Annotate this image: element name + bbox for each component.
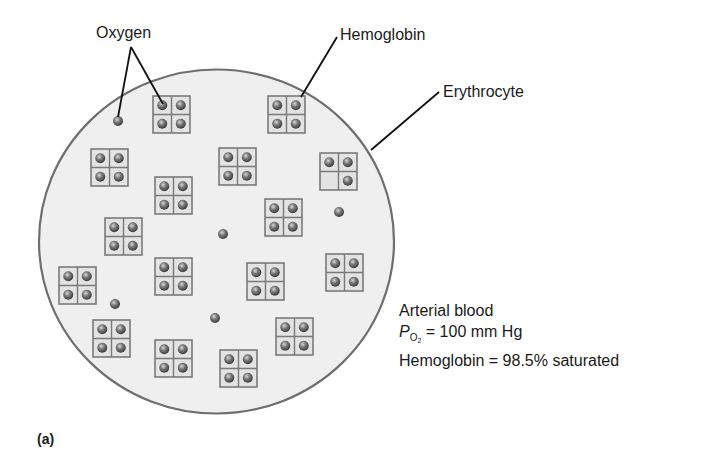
bound-oxygen-icon xyxy=(269,203,279,213)
bound-oxygen-icon xyxy=(128,241,138,251)
bound-oxygen-icon xyxy=(343,157,353,167)
bound-oxygen-icon xyxy=(280,341,290,351)
erythrocyte-leader xyxy=(371,92,439,150)
bound-oxygen-icon xyxy=(97,343,107,353)
bound-oxygen-icon xyxy=(63,290,73,300)
hemoglobin-molecule xyxy=(155,258,192,295)
bound-oxygen-icon xyxy=(288,203,298,213)
bound-oxygen-icon xyxy=(280,322,290,332)
bound-oxygen-icon xyxy=(243,373,253,383)
bound-oxygen-icon xyxy=(270,267,280,277)
hemoglobin-molecule xyxy=(265,199,302,236)
bound-oxygen-icon xyxy=(95,153,105,163)
bound-oxygen-icon xyxy=(178,281,188,291)
free-oxygen-icon xyxy=(218,229,228,239)
bound-oxygen-icon xyxy=(299,322,309,332)
bound-oxygen-icon xyxy=(272,100,282,110)
bound-oxygen-icon xyxy=(178,363,188,373)
bound-oxygen-icon xyxy=(176,119,186,129)
erythrocyte-cell xyxy=(39,70,394,414)
bound-oxygen-icon xyxy=(330,277,340,287)
bound-oxygen-icon xyxy=(330,258,340,268)
bound-oxygen-icon xyxy=(159,262,169,272)
bound-oxygen-icon xyxy=(343,176,353,186)
bound-oxygen-icon xyxy=(349,258,359,268)
bound-oxygen-icon xyxy=(159,181,169,191)
po2-value: = 100 mm Hg xyxy=(421,323,522,340)
bound-oxygen-icon xyxy=(95,172,105,182)
erythrocyte-diagram xyxy=(0,0,727,455)
bound-oxygen-icon xyxy=(178,181,188,191)
bound-oxygen-icon xyxy=(97,324,107,334)
bound-oxygen-icon xyxy=(178,344,188,354)
panel-label: (a) xyxy=(37,431,54,447)
bound-oxygen-icon xyxy=(270,286,280,296)
bound-oxygen-icon xyxy=(159,363,169,373)
free-oxygen-icon xyxy=(113,116,123,126)
bound-oxygen-icon xyxy=(291,100,301,110)
bound-oxygen-icon xyxy=(242,152,252,162)
free-oxygen-icon xyxy=(110,299,120,309)
bound-oxygen-icon xyxy=(291,119,301,129)
bound-oxygen-icon xyxy=(159,200,169,210)
bound-oxygen-icon xyxy=(109,241,119,251)
bound-oxygen-icon xyxy=(178,200,188,210)
bound-oxygen-icon xyxy=(251,267,261,277)
bound-oxygen-icon xyxy=(114,153,124,163)
bound-oxygen-icon xyxy=(269,222,279,232)
bound-oxygen-icon xyxy=(109,222,119,232)
bound-oxygen-icon xyxy=(63,271,73,281)
hemoglobin-molecule xyxy=(155,340,192,377)
bound-oxygen-icon xyxy=(159,281,169,291)
hemoglobin-molecule xyxy=(268,96,305,133)
hemoglobin-molecule xyxy=(93,320,130,357)
free-oxygen-icon xyxy=(210,313,220,323)
bound-oxygen-icon xyxy=(349,277,359,287)
bound-oxygen-icon xyxy=(128,222,138,232)
hemoglobin-molecule xyxy=(91,149,128,186)
bound-oxygen-icon xyxy=(288,222,298,232)
hemoglobin-molecule xyxy=(247,263,284,300)
bound-oxygen-icon xyxy=(324,157,334,167)
bound-oxygen-icon xyxy=(224,354,234,364)
bound-oxygen-icon xyxy=(116,324,126,334)
free-oxygen-icon xyxy=(334,207,344,217)
bound-oxygen-icon xyxy=(223,171,233,181)
hemoglobin-molecule xyxy=(105,218,142,255)
oxygen-label: Oxygen xyxy=(96,24,151,42)
bound-oxygen-icon xyxy=(116,343,126,353)
blood-info: Arterial blood PO2 = 100 mm Hg Hemoglobi… xyxy=(399,301,619,372)
bound-oxygen-icon xyxy=(299,341,309,351)
bound-oxygen-icon xyxy=(272,119,282,129)
saturation-text: Hemoglobin = 98.5% saturated xyxy=(399,351,619,372)
bound-oxygen-icon xyxy=(157,119,167,129)
hemoglobin-label: Hemoglobin xyxy=(340,26,425,44)
hemoglobin-molecule xyxy=(59,267,96,304)
hemoglobin-molecule xyxy=(153,96,190,133)
po2-symbol: P xyxy=(399,323,410,340)
bound-oxygen-icon xyxy=(243,354,253,364)
bound-oxygen-icon xyxy=(223,152,233,162)
bound-oxygen-icon xyxy=(159,344,169,354)
bound-oxygen-icon xyxy=(82,290,92,300)
bound-oxygen-icon xyxy=(178,262,188,272)
bound-oxygen-icon xyxy=(224,373,234,383)
erythrocyte-label: Erythrocyte xyxy=(443,83,524,101)
bound-oxygen-icon xyxy=(242,171,252,181)
hemoglobin-molecule xyxy=(326,254,363,291)
bound-oxygen-icon xyxy=(82,271,92,281)
hemoglobin-molecule xyxy=(155,177,192,214)
po2-text: PO2 = 100 mm Hg xyxy=(399,322,619,352)
bound-oxygen-icon xyxy=(114,172,124,182)
hemoglobin-molecule xyxy=(320,153,357,190)
hemoglobin-molecule xyxy=(220,350,257,387)
bound-oxygen-icon xyxy=(251,286,261,296)
hemoglobin-molecule xyxy=(219,148,256,185)
blood-type-text: Arterial blood xyxy=(399,301,619,322)
hemoglobin-molecule xyxy=(276,318,313,355)
bound-oxygen-icon xyxy=(176,100,186,110)
hemoglobin-leader xyxy=(301,37,337,97)
